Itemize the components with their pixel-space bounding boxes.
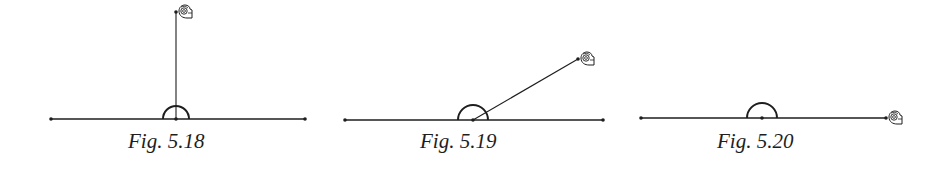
vertex-dot [760, 116, 764, 120]
endpoint-dot [639, 116, 643, 120]
caption-fig-5-19: Fig. 5.19 [420, 131, 496, 152]
arm-endpoint-dot [576, 57, 580, 61]
figure-1 [49, 5, 307, 121]
endpoint-dot [49, 117, 53, 121]
figure-strip: Fig. 5.18 Fig. 5.19 Fig. 5.20 [0, 0, 941, 174]
rotating-arm [473, 59, 578, 120]
angle-arc [747, 103, 777, 118]
endpoint-dot [303, 117, 307, 121]
endpoint-dot [343, 118, 347, 122]
hand-icon [889, 111, 902, 124]
angle-arc [458, 105, 488, 120]
caption-fig-5-20: Fig. 5.20 [717, 131, 793, 152]
arm-endpoint-dot [174, 10, 178, 14]
caption-fig-5-18: Fig. 5.18 [128, 131, 204, 152]
endpoint-dot [884, 116, 888, 120]
figure-3 [639, 103, 902, 124]
hand-icon [581, 52, 594, 65]
hand-icon [179, 5, 192, 18]
endpoint-dot [601, 118, 605, 122]
figure-2 [343, 52, 605, 122]
